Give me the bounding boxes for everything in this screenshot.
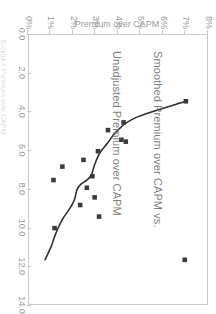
- data-point-marker: [78, 203, 83, 208]
- data-point-marker: [60, 164, 65, 169]
- x-axis-tick-mark: [27, 305, 31, 306]
- x-axis-tick-label: 8.0: [17, 172, 27, 206]
- y-axis-tick-mark: [117, 30, 118, 34]
- data-point-marker: [51, 178, 56, 183]
- x-axis-tick-mark: [27, 266, 31, 267]
- y-axis-tick-label: 4%: [112, 16, 124, 29]
- x-axis-tick-mark: [27, 73, 31, 74]
- y-axis-tick-label: 2%: [67, 16, 79, 29]
- y-axis-tick-mark: [185, 30, 186, 34]
- x-axis-tick-label: 12.0: [17, 249, 27, 283]
- y-axis-tick-mark: [140, 30, 141, 34]
- x-axis: 0.02.04.06.08.010.012.014.0: [5, 34, 27, 305]
- y-axis-tick-mark: [72, 30, 73, 34]
- y-axis: Premium over CAPM 0%1%2%3%4%5%6%7%8%: [28, 0, 208, 34]
- x-axis-tick-label: 6.0: [17, 133, 27, 167]
- data-point-marker: [52, 226, 57, 231]
- y-axis-tick-label: 3%: [90, 16, 102, 29]
- y-axis-tick-label: 0%: [22, 16, 34, 29]
- y-axis-tick-label: 1%: [45, 16, 57, 29]
- y-axis-tick-label: 7%: [180, 16, 192, 29]
- y-axis-tick-mark: [207, 30, 208, 34]
- y-axis-tick-label: 8%: [202, 16, 214, 29]
- figure-caption: Exhibit 4 Premium over CAPM: [0, 40, 7, 135]
- y-axis-tick-mark: [27, 30, 28, 34]
- x-axis-tick-label: 14.0: [17, 288, 27, 314]
- x-axis-tick-mark: [27, 150, 31, 151]
- x-axis-tick-mark: [27, 228, 31, 229]
- data-point-marker: [182, 258, 187, 263]
- x-axis-tick-label: 4.0: [17, 94, 27, 128]
- y-axis-tick-mark: [50, 30, 51, 34]
- x-axis-tick-mark: [27, 189, 31, 190]
- chart-title-line-1: Smoothed Premium over CAPM vs.: [151, 51, 165, 228]
- figure-rotator: Smoothed Premium over CAPM vs. Unadjuste…: [0, 0, 216, 314]
- x-axis-tick-mark: [27, 34, 31, 35]
- chart-title-line-2: Unadjusted Premium over CAPM: [110, 51, 124, 228]
- y-axis-tick-mark: [95, 30, 96, 34]
- y-axis-tick-label: 5%: [135, 16, 147, 29]
- y-axis-tick-mark: [162, 30, 163, 34]
- plot-frame: Smoothed Premium over CAPM vs. Unadjuste…: [28, 34, 208, 305]
- chart-figure: Smoothed Premium over CAPM vs. Unadjuste…: [0, 0, 216, 314]
- chart-title: Smoothed Premium over CAPM vs. Unadjuste…: [83, 51, 191, 228]
- y-axis-tick-label: 6%: [157, 16, 169, 29]
- x-axis-tick-label: 10.0: [17, 211, 27, 245]
- x-axis-tick-label: 2.0: [17, 56, 27, 90]
- x-axis-tick-mark: [27, 111, 31, 112]
